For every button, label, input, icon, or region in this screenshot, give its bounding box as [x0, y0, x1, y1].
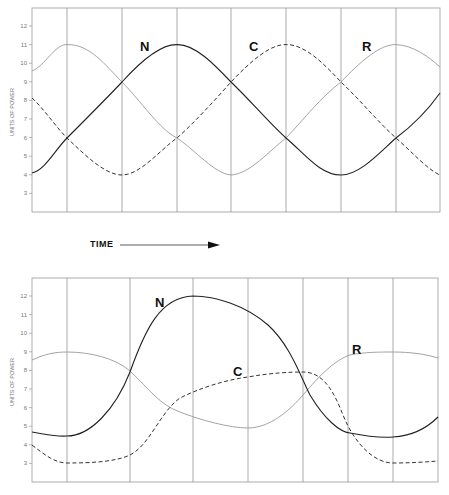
series-c-label: C	[249, 39, 259, 54]
tick-label: 11	[21, 42, 28, 48]
series-r-label: R	[362, 39, 372, 54]
chart-figure: 12 11 10 9 8 7 6 5 4 3 UNITS OF POWER N …	[0, 0, 449, 495]
tick-label: 12	[20, 23, 27, 29]
series-n-label: N	[140, 39, 149, 54]
arrow-head-icon	[208, 242, 220, 249]
tick-label: 8	[24, 97, 28, 103]
time-arrow: TIME	[90, 239, 220, 249]
tick-label: 3	[24, 190, 28, 196]
tick-label: 11	[21, 312, 28, 318]
tick-label: 7	[24, 386, 28, 392]
tick-label: 7	[24, 116, 28, 122]
series-c-label: C	[233, 364, 243, 379]
tick-label: 9	[24, 79, 28, 85]
series-r-label: R	[352, 342, 362, 357]
series-c-line	[32, 372, 438, 463]
tick-label: 9	[24, 349, 28, 355]
top-gridlines	[67, 8, 396, 212]
top-y-axis: 12 11 10 9 8 7 6 5 4 3 UNITS OF POWER	[9, 23, 32, 196]
tick-label: 4	[24, 442, 28, 448]
y-axis-label: UNITS OF POWER	[9, 88, 15, 136]
tick-label: 12	[20, 293, 27, 299]
bottom-gridlines	[67, 278, 393, 482]
tick-label: 5	[24, 153, 28, 159]
series-n-label: N	[155, 295, 164, 310]
tick-label: 5	[24, 423, 28, 429]
series-c-line	[32, 45, 440, 175]
tick-label: 6	[24, 405, 28, 411]
bottom-chart-frame	[32, 278, 438, 482]
tick-label: 3	[24, 460, 28, 466]
top-chart: 12 11 10 9 8 7 6 5 4 3 UNITS OF POWER N …	[9, 8, 440, 212]
tick-label: 8	[24, 367, 28, 373]
series-n-line	[32, 45, 440, 175]
tick-label: 6	[24, 135, 28, 141]
y-axis-label: UNITS OF POWER	[9, 358, 15, 406]
bottom-y-axis: 12 11 10 9 8 7 6 5 4 3 UNITS OF POWER	[9, 293, 32, 466]
top-chart-frame	[32, 8, 440, 212]
series-r-line	[32, 45, 440, 175]
time-label: TIME	[90, 239, 114, 249]
tick-label: 10	[20, 60, 27, 66]
tick-label: 10	[20, 330, 27, 336]
bottom-chart: 12 11 10 9 8 7 6 5 4 3 UNITS OF POWER N …	[9, 278, 438, 482]
tick-label: 4	[24, 172, 28, 178]
